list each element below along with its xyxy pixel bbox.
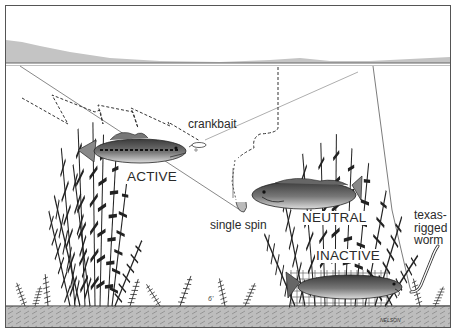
label-inactive: INACTIVE <box>315 249 381 263</box>
artist-signature: NELSON <box>380 318 401 323</box>
label-worm: worm <box>414 234 447 247</box>
label-active: ACTIVE <box>126 170 178 184</box>
label-single-spin: single spin <box>210 219 267 232</box>
label-neutral: NEUTRAL <box>301 211 367 225</box>
label-texas: texas- <box>414 209 447 222</box>
label-crankbait: crankbait <box>188 118 237 131</box>
bass-fishing-illustration <box>0 0 456 333</box>
label-texas-rigged-worm: texas- rigged worm <box>414 209 447 247</box>
depth-marker: 6' <box>208 295 213 302</box>
